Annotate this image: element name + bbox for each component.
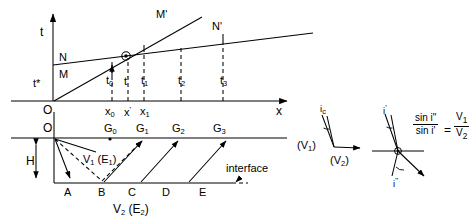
snell-ratio-right: V1 V2 — [454, 111, 469, 141]
snell-ratio-left: sin i" sin i' — [413, 112, 438, 136]
seismic-refraction-figure: t x N M M' N' t* O t0 t' t1 t2 t3 x0 x' … — [0, 0, 476, 223]
headwave-ray-EG3 — [189, 141, 226, 182]
time-label-t0: t0 — [106, 75, 113, 87]
interface-point-E: E — [199, 187, 206, 198]
time-label-t2: t2 — [178, 75, 185, 87]
interface-point-A: A — [64, 187, 71, 198]
downgoing-ray-OA — [55, 139, 70, 178]
plot-origin-label: O — [43, 104, 52, 116]
surface-point-G3: G3 — [213, 123, 226, 135]
distance-label-x-prime: x' — [124, 106, 131, 118]
t-axis-label: t — [40, 26, 43, 38]
depth-label-H: H — [26, 155, 35, 167]
snell-equals-sign: = — [444, 123, 451, 137]
critical-angle-inset-rays — [322, 115, 360, 148]
critical-angle-label: ic — [320, 104, 326, 115]
time-label-t3: t3 — [220, 75, 227, 87]
branch-label-N-prime: N' — [212, 21, 222, 32]
interface-label: interface — [226, 163, 268, 174]
distance-label-x1: x1 — [140, 106, 150, 118]
surface-point-G0: G0 — [104, 123, 117, 135]
surface-point-G1: G1 — [136, 123, 149, 135]
lower-layer-velocity-label: V2 (E2) — [113, 203, 149, 216]
branch-label-N: N — [59, 52, 67, 63]
figure-vector-layer — [0, 0, 476, 223]
interface-point-D: D — [162, 187, 170, 198]
upper-layer-velocity-label: V1 (E1) — [83, 154, 116, 166]
interface-leader-arrow — [236, 178, 240, 182]
velocity-ratio-denominator: V2 — [454, 126, 469, 142]
time-label-t-prime: t' — [124, 75, 129, 87]
time-label-t1: t1 — [141, 75, 148, 87]
branch-label-M-prime: M' — [156, 9, 167, 20]
surface-point-G2: G2 — [172, 123, 185, 135]
intercept-time-label: t* — [33, 78, 40, 89]
inset-upper-velocity-label: (V1) — [297, 140, 316, 152]
x-axis-label: x — [276, 105, 282, 117]
incident-angle-label: i' — [383, 104, 387, 115]
inset-lower-velocity-label: (V2) — [330, 155, 349, 167]
refracted-angle-label: i" — [393, 177, 398, 188]
branch-label-M: M — [59, 69, 68, 80]
direct-surface-ray — [55, 139, 96, 152]
distance-label-x0: x0 — [105, 106, 115, 118]
velocity-ratio-numerator: V1 — [454, 111, 469, 126]
refracted-wave-branch — [53, 33, 313, 65]
interface-point-B: B — [98, 187, 105, 198]
interface-point-C: C — [128, 187, 136, 198]
point-G0-dot — [108, 137, 111, 140]
ray-origin-label: O — [43, 122, 52, 134]
headwave-ray-DG2 — [141, 141, 178, 182]
